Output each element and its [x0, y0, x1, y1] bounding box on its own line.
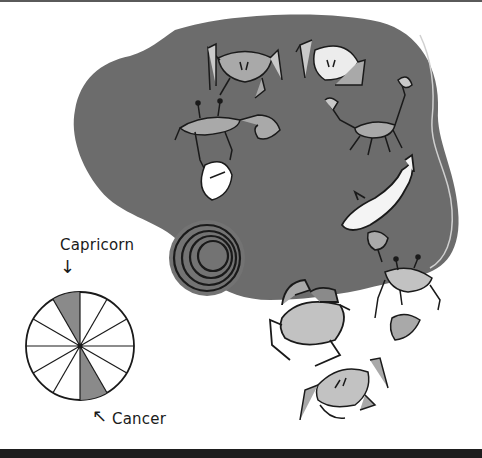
zodiac-wheel — [26, 292, 134, 400]
zodiac-illustration — [0, 0, 482, 458]
cancer-arrow-icon: ↖ — [92, 405, 107, 426]
cancer-label: Cancer — [112, 410, 166, 428]
capricorn-label: Capricorn — [60, 236, 134, 254]
capricorn-arrow-icon: ↓ — [60, 256, 75, 277]
crab-icon — [300, 358, 388, 420]
spiral-icon — [169, 220, 245, 296]
bottom-border — [0, 449, 482, 458]
